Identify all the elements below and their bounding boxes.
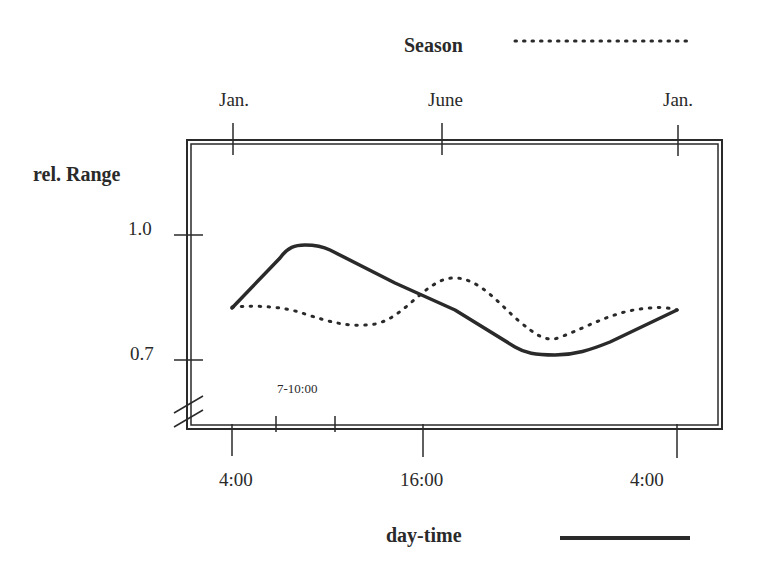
y-tick-label-0-7: 0.7	[130, 343, 154, 365]
top-tick-label-jan-right: Jan.	[663, 89, 693, 111]
top-tick-label-june: June	[428, 89, 463, 111]
plot-frame-outer	[187, 140, 722, 429]
top-tick-label-jan-left: Jan.	[219, 89, 249, 111]
y-tick-label-1-0: 1.0	[128, 218, 152, 240]
bottom-tick-label-16: 16:00	[400, 469, 443, 491]
bottom-tick-label-4-left: 4:00	[219, 469, 253, 491]
y-axis-label: rel. Range	[33, 163, 120, 186]
legend-daytime-label: day-time	[386, 524, 462, 547]
annotation-7-10: 7-10:00	[277, 381, 317, 397]
bottom-tick-label-4-right: 4:00	[630, 469, 664, 491]
series-daytime-line	[232, 245, 677, 355]
axis-break-mark-1	[174, 396, 203, 413]
plot-frame-inner	[191, 144, 718, 425]
